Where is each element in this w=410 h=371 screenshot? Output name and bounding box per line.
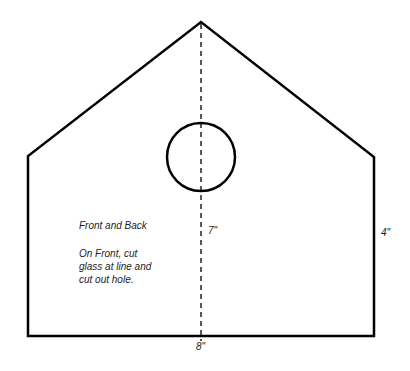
panel-name-label: Front and Back [79,219,147,232]
side-height-label: 4" [381,226,390,239]
instruction-line-3: cut out hole. [79,273,133,286]
center-height-label: 7" [208,224,217,237]
instruction-line-1: On Front, cut [79,247,137,260]
birdhouse-pattern [0,0,410,371]
instruction-line-2: glass at line and [79,260,151,273]
bottom-width-label: 8" [196,340,205,353]
